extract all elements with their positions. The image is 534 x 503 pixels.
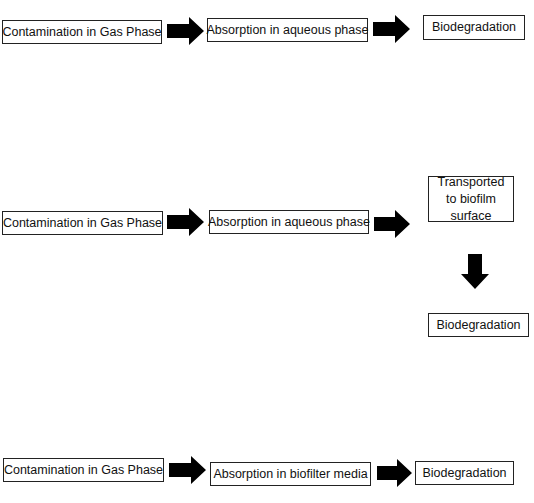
step-label: Contamination in Gas Phase [4,462,163,479]
step-box-transported-to-biofilm: Transported to biofilm surface [428,176,514,222]
right-arrow-icon [374,210,410,238]
step-box-absorption-aqueous-phase: Absorption in aqueous phase [209,210,369,234]
step-box-contamination-gas-phase: Contamination in Gas Phase [3,458,164,482]
step-label: Contamination in Gas Phase [3,215,162,232]
right-arrow-icon [167,208,204,236]
step-label: Absorption in aqueous phase [208,214,370,231]
step-box-contamination-gas-phase: Contamination in Gas Phase [2,211,163,235]
step-label: Transported to biofilm surface [432,174,510,225]
step-box-absorption-biofilter-media: Absorption in biofilter media [210,462,371,486]
step-label: Biodegradation [422,465,506,482]
step-box-contamination-gas-phase: Contamination in Gas Phase [2,20,162,44]
right-arrow-icon [169,456,206,484]
step-box-biodegradation: Biodegradation [423,15,525,40]
step-label: Biodegradation [432,19,516,36]
step-label: Absorption in aqueous phase [207,22,369,39]
right-arrow-icon [373,15,410,43]
right-arrow-icon [167,17,204,45]
step-label: Contamination in Gas Phase [2,24,161,41]
step-label: Biodegradation [436,317,520,334]
down-arrow-icon [461,254,489,289]
step-box-absorption-aqueous-phase: Absorption in aqueous phase [207,18,368,42]
step-box-biodegradation: Biodegradation [428,313,529,337]
right-arrow-icon [377,459,412,487]
step-label: Absorption in biofilter media [213,466,367,483]
step-box-biodegradation: Biodegradation [415,461,514,485]
